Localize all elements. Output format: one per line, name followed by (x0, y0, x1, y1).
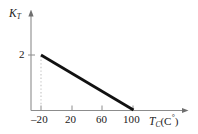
x-tick-label-60: 60 (96, 114, 107, 125)
data-series-line (41, 55, 134, 110)
y-axis-label-subscript: T (17, 12, 21, 21)
y-axis-label: KT (9, 8, 21, 20)
y-tick-label-2: 2 (19, 49, 25, 60)
x-axis-label-unit-close: ) (175, 115, 179, 127)
x-tick-label-20: 20 (65, 114, 76, 125)
y-axis-label-main: K (9, 7, 17, 19)
x-tick-label-100: 100 (123, 114, 140, 125)
x-axis-label-subscript: C (155, 120, 160, 129)
x-axis-label-unit: (C (160, 115, 171, 127)
x-tick-label-minus20: –20 (31, 114, 48, 125)
x-axis-label: TC(C°) (149, 114, 178, 127)
chart-figure: KT 2 –20 20 60 100 TC(C°) (0, 0, 198, 134)
